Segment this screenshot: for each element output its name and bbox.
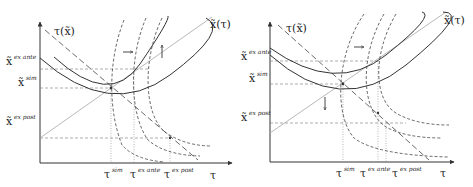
svg-text:sim: sim xyxy=(112,166,123,173)
svg-text:x̃: x̃ xyxy=(249,72,256,85)
svg-text:ex ante: ex ante xyxy=(138,166,161,173)
right-diagram: τ(x̃) x̃(τ) x̃ ex ante x̃ sim x̃ ex post… xyxy=(236,0,473,187)
svg-text:sim: sim xyxy=(344,165,355,172)
tau-of-x-line xyxy=(278,25,429,160)
svg-text:τ: τ xyxy=(130,168,136,181)
svg-text:x̃: x̃ xyxy=(6,115,13,128)
svg-text:τ: τ xyxy=(336,167,342,180)
svg-text:x̃: x̃ xyxy=(241,50,248,63)
svg-text:ex post: ex post xyxy=(14,113,36,121)
y-tick-sim: x̃ sim xyxy=(18,74,37,89)
svg-text:ex post: ex post xyxy=(172,166,194,174)
tau-of-x-label: τ(x̃) xyxy=(286,22,307,35)
dashed-curve-1 xyxy=(341,14,448,157)
x-tick-tau-sim: τ sim xyxy=(336,165,355,180)
svg-text:ex post: ex post xyxy=(249,109,271,117)
svg-text:sim: sim xyxy=(257,70,268,77)
x-of-tau-label: x̃(τ) xyxy=(210,18,231,31)
x-axis-label: τ xyxy=(210,169,216,182)
y-tick-ex-ante: x̃ ex ante xyxy=(241,48,272,63)
svg-text:ex ante: ex ante xyxy=(368,165,391,172)
y-tick-ex-post: x̃ ex post xyxy=(241,109,271,124)
svg-text:x̃: x̃ xyxy=(6,55,13,68)
left-panel: τ(x̃) x̃(τ) x̃ ex ante x̃ sim x̃ ex post… xyxy=(0,0,236,187)
y-tick-ex-post: x̃ ex post xyxy=(6,113,36,128)
svg-text:τ: τ xyxy=(104,168,110,181)
x-tick-tau-ex-post: τ ex post xyxy=(164,166,194,181)
svg-text:x̃: x̃ xyxy=(241,111,248,124)
svg-text:τ: τ xyxy=(164,168,170,181)
svg-text:sim: sim xyxy=(26,74,37,81)
svg-text:x̃: x̃ xyxy=(18,76,25,89)
left-diagram: τ(x̃) x̃(τ) x̃ ex ante x̃ sim x̃ ex post… xyxy=(0,0,236,187)
right-panel: τ(x̃) x̃(τ) x̃ ex ante x̃ sim x̃ ex post… xyxy=(236,0,473,187)
dashed-curve-2 xyxy=(366,14,442,138)
svg-text:τ: τ xyxy=(392,167,398,180)
y-tick-ex-ante: x̃ ex ante xyxy=(6,53,37,68)
tau-of-x-line xyxy=(45,30,198,160)
svg-text:ex ante: ex ante xyxy=(249,48,272,55)
equilibrium-point xyxy=(342,83,345,86)
svg-text:ex ante: ex ante xyxy=(14,53,37,60)
ex-post-point xyxy=(377,112,379,114)
svg-text:ex post: ex post xyxy=(400,165,422,173)
x-axis-label: τ xyxy=(440,167,446,180)
svg-text:τ: τ xyxy=(360,167,366,180)
dashed-curve-2 xyxy=(133,18,200,156)
x-tick-tau-sim: τ sim xyxy=(104,166,123,181)
y-tick-sim: x̃ sim xyxy=(249,70,268,85)
equilibrium-point xyxy=(110,87,113,90)
x-tick-tau-ex-ante: τ ex ante xyxy=(130,166,161,181)
ex-post-point xyxy=(169,137,171,139)
x-tick-tau-ex-post: τ ex post xyxy=(392,165,422,180)
x-of-tau-label: x̃(τ) xyxy=(444,14,465,27)
x-tick-tau-ex-ante: τ ex ante xyxy=(360,165,391,180)
tau-of-x-label: τ(x̃) xyxy=(54,25,75,38)
